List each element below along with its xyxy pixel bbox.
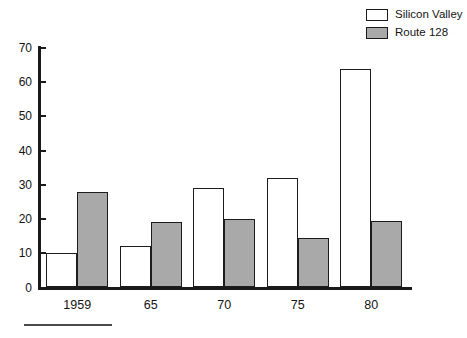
bar-1959-route-128 bbox=[77, 192, 108, 288]
footer-divider bbox=[24, 324, 112, 326]
bar-1959-silicon-valley bbox=[46, 253, 77, 287]
bar-70-route-128 bbox=[224, 219, 255, 287]
bar-80-route-128 bbox=[371, 221, 402, 288]
chart-plot-area: 010203040506070 195965707580 bbox=[0, 0, 467, 338]
x-axis-label-70: 70 bbox=[194, 298, 254, 312]
bar-80-silicon-valley bbox=[340, 69, 371, 288]
x-axis-label-80: 80 bbox=[341, 298, 401, 312]
bar-75-route-128 bbox=[298, 238, 329, 288]
bar-75-silicon-valley bbox=[267, 178, 298, 287]
chart-bars bbox=[0, 0, 467, 338]
x-axis-label-1959: 1959 bbox=[47, 298, 107, 312]
bar-65-route-128 bbox=[151, 222, 182, 287]
bar-70-silicon-valley bbox=[193, 188, 224, 287]
x-axis-label-65: 65 bbox=[121, 298, 181, 312]
bar-65-silicon-valley bbox=[120, 246, 151, 287]
x-axis-label-75: 75 bbox=[268, 298, 328, 312]
